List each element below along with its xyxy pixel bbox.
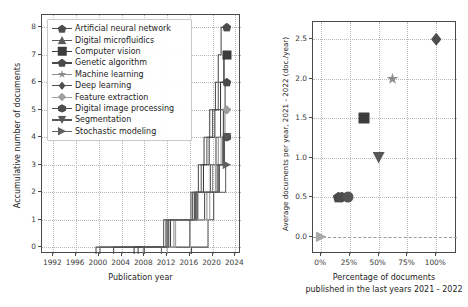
right-ytick [309,78,312,79]
legend-item-genetic-algorithm[interactable]: Genetic algorithm [52,57,186,68]
left-xtick-label: 2012 [157,258,176,267]
left-xtick-label: 2000 [88,258,107,267]
right-xtick [349,253,350,256]
left-xtick [52,253,53,256]
left-ytick [38,191,41,192]
figure-root: Accumulative number of documents Publica… [0,0,468,307]
left-ytick-label: 8 [17,22,36,31]
right-ytick [309,117,312,118]
scatter-point-artificial-neural-network [430,33,443,46]
right-zero-line [313,237,457,238]
legend-square-marker-icon [58,47,67,56]
legend-key [52,46,72,57]
legend-key [52,57,72,68]
left-series-line [144,137,226,254]
left-ytick-label: 3 [17,159,36,168]
left-ytick-label: 5 [17,104,36,113]
left-xtick [98,253,99,256]
legend-item-label: Machine learning [72,70,144,79]
right-gridline-h [313,118,457,119]
right-ytick [309,38,312,39]
right-gridline-h [313,158,457,159]
scatter-point-feature-extraction [342,192,353,203]
left-ytick [38,136,41,137]
right-y-axis-title: Average documents per year, 2021 - 2022 … [281,18,290,250]
left-ytick [38,26,41,27]
legend-pentagon-marker-icon [58,24,67,33]
legend-item-label: Artificial neural network [72,24,171,33]
left-ytick [38,164,41,165]
left-ytick-label: 0 [17,242,36,251]
right-xtick-label: 50% [369,258,385,267]
legend-item-deep-learning[interactable]: Deep learning [52,80,186,91]
legend-key [52,23,72,34]
scatter-point-computer-vision [358,113,369,124]
left-xtick-label: 2016 [179,258,198,267]
legend-key [52,114,72,125]
left-ytick-label: 6 [17,77,36,86]
right-ytick [309,196,312,197]
right-panel: Average documents per year, 2021 - 2022 … [268,0,468,307]
right-gridline-h [313,79,457,80]
legend-item-digital-microfluidics[interactable]: Digital microfluidics [52,34,186,45]
legend-item-segmentation[interactable]: Segmentation [52,114,186,125]
legend-item-label: Digital microfluidics [72,36,154,45]
left-ytick-label: 1 [17,214,36,223]
legend-triangle-right-marker-icon [58,127,67,136]
right-gridline-v [379,22,380,254]
left-ytick [38,54,41,55]
right-x-axis-title-line2: published in the last years 2021 - 2022 [288,285,468,294]
legend-item-digital-image-processing[interactable]: Digital image processing [52,103,186,114]
legend-item-label: Deep learning [72,81,131,90]
left-xtick [212,253,213,256]
left-xtick-label: 2020 [202,258,221,267]
left-ytick [38,246,41,247]
legend-item-stochastic-modeling[interactable]: Stochastic modeling [52,126,186,137]
legend-item-label: Segmentation [72,115,131,124]
legend-item-feature-extraction[interactable]: Feature extraction [52,91,186,102]
right-xtick-label: 75% [398,258,414,267]
right-ytick [309,236,312,237]
legend-key [52,92,72,103]
left-xtick-label: 2024 [225,258,244,267]
left-ytick-label: 4 [17,132,36,141]
right-ytick-label: 0.5 [286,192,307,201]
left-square-marker-icon [222,50,231,59]
left-ytick-label: 7 [17,49,36,58]
right-xtick [406,253,407,256]
right-axes-frame [312,21,456,253]
legend-item-machine-learning[interactable]: Machine learning [52,69,186,80]
left-xtick-label: 1992 [43,258,62,267]
legend-item-label: Digital image processing [72,104,174,113]
left-legend: Artificial neural networkDigital microfl… [47,19,192,141]
legend-item-label: Computer vision [72,47,141,56]
left-xtick [143,253,144,256]
right-xtick-label: 25% [341,258,357,267]
right-xtick [435,253,436,256]
right-ytick-label: 1.5 [286,113,307,122]
left-xtick [166,253,167,256]
legend-pentagon-marker-icon [58,59,67,68]
legend-item-label: Genetic algorithm [72,58,147,67]
left-xtick [75,253,76,256]
left-xtick-label: 1996 [66,258,85,267]
left-series-line [192,110,227,254]
legend-thin-diamond-marker-icon [58,81,67,90]
legend-item-computer-vision[interactable]: Computer vision [52,46,186,57]
legend-item-label: Stochastic modeling [72,127,156,136]
right-x-axis-title-line1: Percentage of documents [298,273,468,282]
left-xtick [121,253,122,256]
legend-item-artificial-neural-network[interactable]: Artificial neural network [52,23,186,34]
left-xtick [189,253,190,256]
legend-hexagon-marker-icon [58,104,67,113]
right-xtick-label: 100% [425,258,446,267]
right-ytick-label: 2.5 [286,34,307,43]
left-ytick [38,81,41,82]
legend-key [52,103,72,114]
legend-key [52,69,72,80]
legend-key [52,126,72,137]
legend-item-label: Feature extraction [72,93,148,102]
legend-diamond-marker-icon [58,93,67,102]
right-xtick-label: 0% [314,258,326,267]
right-gridline-v [321,22,322,254]
